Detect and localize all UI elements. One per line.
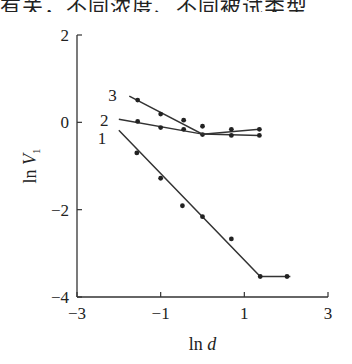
series-label-3: 3: [108, 86, 117, 105]
series-label-1: 1: [98, 129, 107, 148]
fit-line: [129, 96, 259, 134]
chart-series: [119, 96, 291, 279]
data-point: [257, 127, 262, 132]
data-point: [158, 125, 163, 130]
data-point: [258, 274, 263, 279]
data-point: [181, 127, 186, 132]
data-point: [134, 151, 139, 156]
x-tick-label: −1: [152, 304, 170, 323]
data-point: [257, 133, 262, 138]
data-point: [158, 112, 163, 117]
y-axis-label: ln V1: [20, 148, 42, 183]
series-label-2: 2: [100, 111, 109, 130]
fit-line: [119, 130, 291, 276]
y-tick-label: −2: [51, 201, 69, 220]
line-chart: 20−2−4−3−113 ln dln V1123: [0, 0, 352, 364]
x-axis-label: ln d: [189, 334, 218, 354]
data-point: [229, 237, 234, 242]
series-3: [129, 96, 262, 134]
x-tick-label: 1: [240, 304, 249, 323]
data-point: [180, 203, 185, 208]
y-tick-label: 2: [61, 26, 70, 45]
data-point: [229, 133, 234, 138]
data-point: [200, 214, 205, 219]
x-tick-label: −3: [68, 304, 86, 323]
data-point: [158, 176, 163, 181]
data-point: [229, 127, 234, 132]
data-point: [200, 124, 205, 129]
series-1: [119, 130, 291, 279]
chart-axes: 20−2−4−3−113: [51, 26, 332, 323]
data-point: [135, 98, 140, 103]
y-tick-label: 0: [61, 113, 70, 132]
y-tick-label: −4: [51, 288, 70, 307]
data-point: [135, 119, 140, 124]
data-point: [285, 274, 290, 279]
x-tick-label: 3: [324, 304, 333, 323]
data-point: [181, 118, 186, 123]
